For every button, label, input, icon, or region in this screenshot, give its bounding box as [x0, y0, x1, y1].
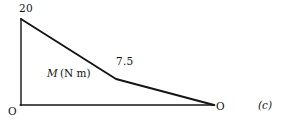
figure-part-caption: (c) [258, 100, 272, 111]
diagram-canvas [0, 0, 282, 122]
quantity-unit-label: M (N m) [47, 68, 91, 79]
peak-value-label: 20 [19, 3, 33, 14]
quantity-symbol: M [47, 67, 58, 79]
quantity-unit: (N m) [60, 67, 91, 79]
origin-label-left: O [8, 106, 17, 117]
kink-value-label: 7.5 [116, 56, 133, 67]
origin-label-right: O [216, 101, 225, 112]
bending-moment-diagram-figure: 20 7.5 M (N m) O O (c) [0, 0, 282, 122]
